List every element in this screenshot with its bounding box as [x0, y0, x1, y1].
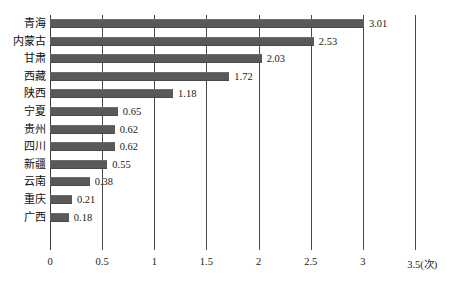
bar-value-label: 0.38	[95, 173, 113, 191]
category-label: 甘肃	[0, 50, 46, 68]
bar	[50, 125, 115, 134]
bar	[50, 195, 72, 204]
bar-row: 0.18	[50, 209, 415, 227]
bar-row: 0.21	[50, 191, 415, 209]
category-label: 四川	[0, 138, 46, 156]
bar-row: 1.18	[50, 85, 415, 103]
bar-row: 1.72	[50, 68, 415, 86]
bar-value-label: 1.72	[234, 68, 252, 86]
bar-value-label: 3.01	[369, 15, 387, 33]
bar-value-label: 0.55	[112, 156, 130, 174]
bar	[50, 19, 364, 28]
bar	[50, 177, 90, 186]
bar	[50, 107, 118, 116]
bar-row: 3.01	[50, 15, 415, 33]
bar-row: 0.38	[50, 173, 415, 191]
bar	[50, 213, 69, 222]
bar-row: 2.03	[50, 50, 415, 68]
bar-row: 2.53	[50, 33, 415, 51]
x-tick-label: 1.5	[200, 256, 213, 267]
bar-value-label: 0.62	[120, 121, 138, 139]
bar-value-label: 2.03	[267, 50, 285, 68]
bar	[50, 54, 262, 63]
bar	[50, 142, 115, 151]
x-tick-label: 1	[152, 256, 157, 267]
category-label: 贵州	[0, 121, 46, 139]
bar-row: 0.62	[50, 121, 415, 139]
bar-value-label: 0.62	[120, 138, 138, 156]
bar	[50, 72, 229, 81]
bar-row: 0.55	[50, 156, 415, 174]
category-label: 青海	[0, 15, 46, 33]
bar-row: 0.62	[50, 138, 415, 156]
category-label: 陕西	[0, 85, 46, 103]
category-label: 内蒙古	[0, 33, 46, 51]
bar-value-label: 1.18	[178, 85, 196, 103]
bar	[50, 89, 173, 98]
category-label: 广西	[0, 209, 46, 227]
x-tick-label: 3	[360, 256, 365, 267]
gridline	[415, 15, 416, 250]
x-tick-label: 0.5	[96, 256, 109, 267]
bar-row: 0.65	[50, 103, 415, 121]
category-label: 重庆	[0, 191, 46, 209]
category-label: 西藏	[0, 68, 46, 86]
horizontal-bar-chart: 3.012.532.031.721.180.650.620.620.550.38…	[0, 0, 460, 285]
category-label: 宁夏	[0, 103, 46, 121]
x-tick-label: 3.5(次)	[407, 256, 437, 271]
x-tick-label: 2.5	[304, 256, 317, 267]
bar-value-label: 2.53	[319, 33, 337, 51]
category-label: 云南	[0, 173, 46, 191]
category-label: 新疆	[0, 156, 46, 174]
bar	[50, 160, 107, 169]
x-tick-label: 0	[47, 256, 52, 267]
bar-value-label: 0.21	[77, 191, 95, 209]
x-tick-label: 2	[256, 256, 261, 267]
bar-value-label: 0.18	[74, 209, 92, 227]
bar-value-label: 0.65	[123, 103, 141, 121]
plot-area: 3.012.532.031.721.180.650.620.620.550.38…	[50, 15, 415, 250]
bar	[50, 37, 314, 46]
